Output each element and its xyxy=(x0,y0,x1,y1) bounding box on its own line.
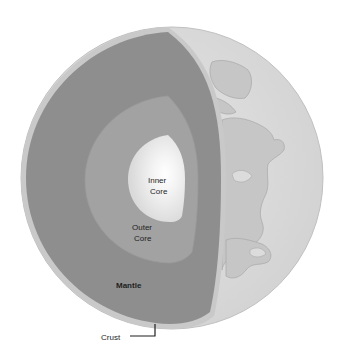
earth-cross-section-diagram: Inner Core Outer Core Mantle Crust xyxy=(0,0,345,363)
inner-core-label-line1: Inner xyxy=(148,176,167,185)
crust-label: Crust xyxy=(101,333,121,342)
mantle-label: Mantle xyxy=(116,281,142,290)
outer-core-label-line2: Core xyxy=(134,234,152,243)
inner-core-label-line2: Core xyxy=(150,187,168,196)
outer-core-label-line1: Outer xyxy=(132,223,152,232)
